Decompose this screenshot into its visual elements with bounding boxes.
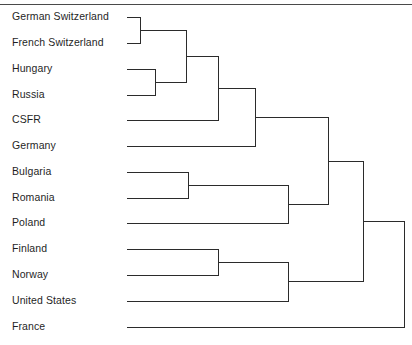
- dendrogram-figure: German SwitzerlandFrench SwitzerlandHung…: [0, 0, 412, 345]
- dendrogram-tree: [0, 0, 412, 345]
